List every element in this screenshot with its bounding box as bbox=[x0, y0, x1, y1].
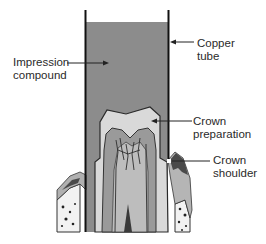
label-impression-compound: Impression compound bbox=[13, 56, 69, 82]
label-crown-preparation: Crown preparation bbox=[193, 115, 251, 141]
label-crown-shoulder: Crown shoulder bbox=[213, 154, 257, 180]
arrow-icon bbox=[170, 40, 176, 45]
leader-copper-tube bbox=[170, 40, 194, 45]
copper-tube-impression-diagram: Impression compound Copper tube Crown pr… bbox=[0, 0, 266, 244]
label-copper-tube: Copper tube bbox=[197, 37, 235, 63]
